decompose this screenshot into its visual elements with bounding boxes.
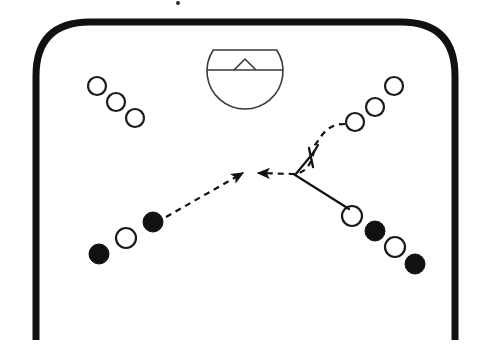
goal-area-shape [207,50,283,109]
player-marker-filled[interactable] [89,244,109,264]
player-marker-open[interactable] [346,113,364,131]
player-marker-open[interactable] [342,206,362,226]
player-marker-open[interactable] [385,77,403,95]
player-marker-filled[interactable] [365,221,385,241]
top-right-open-players [346,77,403,131]
stray-dot [176,1,180,5]
goal-peak-triangle [234,59,256,70]
player-marker-open[interactable] [126,109,144,127]
court-diagram-svg [0,0,487,364]
player-marker-filled[interactable] [405,254,425,274]
bottom-left-players [89,212,163,264]
screen-block-chevron [295,152,349,209]
player-marker-open[interactable] [116,228,136,248]
player-marker-open[interactable] [88,77,106,95]
player-marker-open[interactable] [107,93,125,111]
player-marker-filled[interactable] [143,212,163,232]
player-marker-open[interactable] [385,237,405,257]
top-left-open-players [88,77,144,127]
dashed-pass-arrow-left [166,173,243,217]
screen-tick-mark [314,145,318,152]
tactics-diagram [0,0,487,364]
bottom-right-players [342,206,425,274]
player-marker-open[interactable] [366,98,384,116]
